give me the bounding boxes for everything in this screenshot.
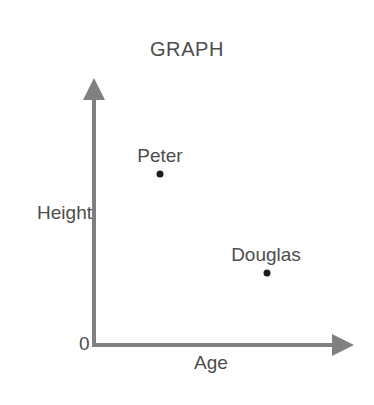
x-axis-label: Age bbox=[194, 353, 228, 372]
data-point-label: Peter bbox=[137, 146, 182, 165]
x-axis-arrowhead-icon bbox=[332, 334, 354, 356]
y-axis-label: Height bbox=[37, 203, 92, 222]
origin-label: 0 bbox=[79, 334, 90, 353]
data-point-label: Douglas bbox=[231, 245, 301, 264]
data-point-marker bbox=[264, 270, 271, 277]
graph-figure: GRAPH Height Age 0 Peter Douglas bbox=[0, 0, 374, 405]
data-point-marker bbox=[157, 171, 164, 178]
y-axis-arrowhead-icon bbox=[83, 78, 105, 100]
